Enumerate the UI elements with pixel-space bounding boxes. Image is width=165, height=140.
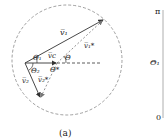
label-theta-star: Θ* — [50, 66, 60, 74]
label-v2-star: v̅₂* — [38, 76, 49, 84]
collision-diagram: v̅₁ v̅c v̅₂ v̅₁* v̅₂* Θ₁ Θ₂ Θ* Θ (a) π Θ… — [0, 0, 165, 140]
y-bottom-label: 0 — [156, 113, 161, 122]
label-v1: v̅₁ — [60, 28, 68, 37]
label-vc: v̅c — [48, 52, 56, 60]
label-theta2: Θ₂ — [31, 67, 40, 75]
y-axis-label: Θ₁ — [150, 58, 160, 67]
label-v2: v̅₂ — [22, 77, 29, 85]
label-v1-star: v̅₁* — [84, 42, 95, 50]
y-top-label: π — [155, 7, 160, 16]
label-theta: Θ — [65, 54, 71, 62]
caption-a: (a) — [59, 128, 71, 138]
label-theta1: Θ₁ — [33, 54, 42, 62]
